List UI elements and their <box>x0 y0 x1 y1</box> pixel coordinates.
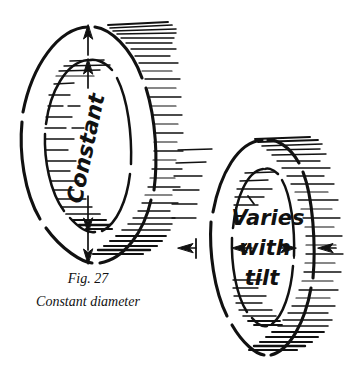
figure-27-illustration: Constant <box>0 0 360 386</box>
right-ring-annotation-line-2: with <box>239 236 291 260</box>
right-ring-annotation-line-3: tilt <box>245 266 280 290</box>
left-ring-annotation-constant: Constant <box>62 90 110 206</box>
hand-drawn-ring-diagram: Constant <box>0 0 360 386</box>
figure-caption-title: Constant diameter <box>36 294 140 309</box>
right-ring-annotation-line-1: Varies <box>231 206 304 230</box>
figure-number-label: Fig. 27 <box>67 271 109 286</box>
right-ring-left-hatching <box>172 149 212 218</box>
